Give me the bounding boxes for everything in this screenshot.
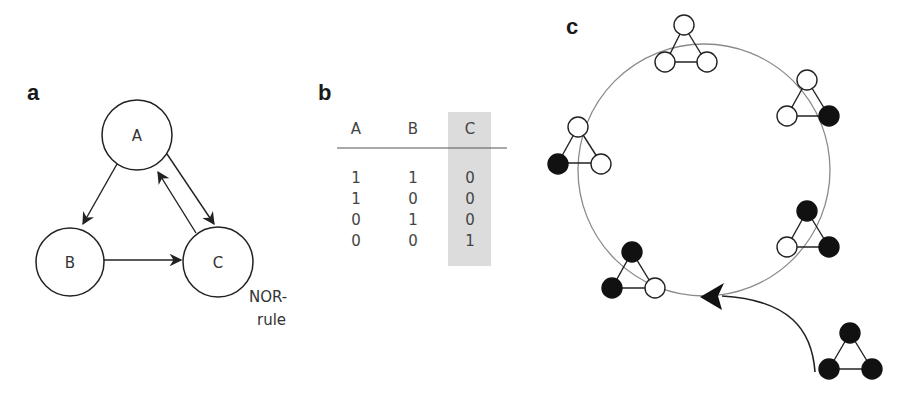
cell-a: 1: [351, 190, 361, 208]
cell-a: 0: [351, 211, 361, 229]
cell-b: 1: [408, 211, 418, 229]
cell-b: 1: [408, 169, 418, 187]
state-left: [548, 117, 611, 174]
cell-b: 0: [408, 190, 418, 208]
arrowhead-icon: [700, 283, 724, 310]
column-header-a: A: [351, 120, 362, 138]
node-b-label: B: [65, 254, 75, 272]
edge-a-to-c: [167, 154, 214, 224]
cell-c: 0: [465, 211, 475, 229]
cycle-circle: [578, 44, 830, 296]
state-cycle: [548, 15, 882, 379]
edge-a-to-b: [83, 164, 117, 224]
network-diagram: A B C NOR- rule: [36, 100, 287, 329]
node-a: A: [102, 100, 172, 170]
cell-c: 0: [465, 169, 475, 187]
entry-trajectory: [722, 296, 815, 372]
node-b: B: [36, 228, 104, 296]
column-header-b: B: [408, 120, 418, 138]
figure-canvas: A B C NOR- rule A B C 1 1 0 1 0 0 0: [0, 0, 910, 401]
cell-a: 1: [351, 169, 361, 187]
cell-a: 0: [351, 232, 361, 250]
cell-c: 0: [465, 190, 475, 208]
node-c-label: C: [213, 254, 223, 272]
column-header-c: C: [465, 120, 475, 138]
rule-label-line1: NOR-: [249, 288, 287, 306]
rule-label-line2: rule: [257, 311, 286, 329]
state-lower-right: [777, 201, 839, 257]
node-c: C: [183, 227, 253, 297]
state-entry: [819, 323, 882, 379]
cell-b: 0: [408, 232, 418, 250]
truth-table: A B C 1 1 0 1 0 0 0 1 0 0 0 1: [337, 112, 507, 266]
node-a-label: A: [132, 127, 143, 145]
cell-c: 1: [465, 232, 475, 250]
state-bottom-left: [602, 242, 665, 298]
edge-c-to-a: [158, 172, 196, 233]
